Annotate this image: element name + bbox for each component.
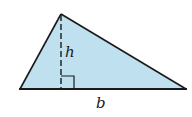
- triangle-diagram: h b: [0, 0, 192, 117]
- base-label: b: [96, 94, 106, 112]
- triangle-shape: [20, 14, 186, 89]
- height-label: h: [65, 43, 75, 61]
